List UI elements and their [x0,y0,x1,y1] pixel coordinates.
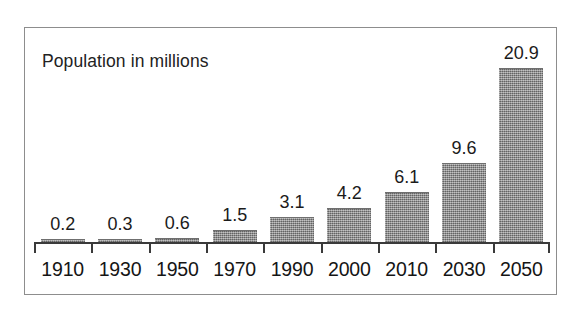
bar-slot: 9.6 [435,68,492,243]
bar-1990[interactable] [270,217,314,243]
x-tick-label-2000: 2000 [328,258,371,281]
bar-2010[interactable] [385,192,429,243]
x-tick-label-1910: 1910 [41,258,84,281]
x-axis-tick [378,244,380,253]
bar-value-label-2000: 4.2 [337,183,362,204]
plot-area: 0.20.30.61.53.14.26.19.620.9 [34,68,550,243]
bar-slot: 4.2 [321,68,378,243]
x-axis-tick [435,244,437,253]
x-tick-label-2050: 2050 [500,258,543,281]
bar-value-label-1910: 0.2 [50,214,75,235]
x-axis-tick [321,244,323,253]
x-tick-label-1970: 1970 [213,258,256,281]
bar-2050[interactable] [499,68,543,243]
x-tick-label-2030: 2030 [443,258,486,281]
x-tick-label-1990: 1990 [271,258,314,281]
bar-chart-figure: Population in millions 0.20.30.61.53.14.… [0,0,582,310]
x-tick-label-2010: 2010 [385,258,428,281]
x-axis-tick [493,244,495,253]
x-axis-baseline [34,242,550,244]
x-axis-tick [34,244,36,253]
bar-slot: 0.6 [149,68,206,243]
bar-value-label-1990: 3.1 [279,192,304,213]
x-tick-label-1930: 1930 [99,258,142,281]
x-axis-tick [263,244,265,253]
bar-value-label-2010: 6.1 [394,167,419,188]
bar-2000[interactable] [327,208,371,243]
bar-value-label-2050: 20.9 [504,43,539,64]
bar-2030[interactable] [442,163,486,243]
x-axis-tick [206,244,208,253]
bar-value-label-1930: 0.3 [107,214,132,235]
bar-slot: 0.3 [91,68,148,243]
bar-slot: 0.2 [34,68,91,243]
bar-slot: 20.9 [493,68,550,243]
x-axis-labels: 191019301950197019902000201020302050 [34,258,550,288]
bar-value-label-2030: 9.6 [451,138,476,159]
bar-value-label-1950: 0.6 [165,213,190,234]
bar-slot: 6.1 [378,68,435,243]
bar-slot: 3.1 [263,68,320,243]
bar-slot: 1.5 [206,68,263,243]
bar-value-label-1970: 1.5 [222,205,247,226]
x-tick-label-1950: 1950 [156,258,199,281]
x-axis-tick [548,244,550,253]
x-axis-tick [149,244,151,253]
x-axis-tick [91,244,93,253]
